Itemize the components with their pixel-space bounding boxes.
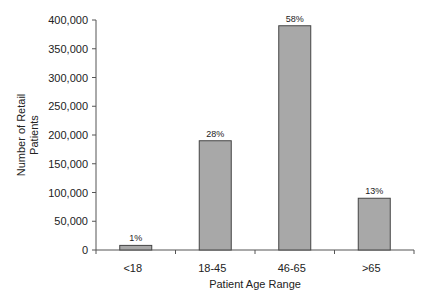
y-axis-label-line2: Patients — [28, 115, 40, 155]
bar — [279, 26, 311, 250]
y-tick-label: 50,000 — [54, 215, 88, 227]
y-tick-label: 350,000 — [48, 43, 88, 55]
bars: 1%28%58%13% — [120, 14, 391, 250]
y-axis-label: Number of Retail — [15, 94, 27, 177]
bar — [120, 245, 152, 250]
x-tick-label: >65 — [362, 262, 381, 274]
bar-data-label: 58% — [286, 14, 304, 24]
y-tick-label: 250,000 — [48, 100, 88, 112]
x-tick-label: 46-65 — [278, 262, 306, 274]
x-axis-label: Patient Age Range — [209, 278, 301, 290]
y-axis: 050,000100,000150,000200,000250,000300,0… — [48, 14, 96, 256]
y-tick-label: 0 — [82, 244, 88, 256]
bar — [358, 198, 390, 250]
x-tick-label: <18 — [123, 262, 142, 274]
y-tick-label: 150,000 — [48, 158, 88, 170]
bar-chart: 050,000100,000150,000200,000250,000300,0… — [0, 0, 429, 302]
y-tick-label: 400,000 — [48, 14, 88, 26]
y-tick-label: 300,000 — [48, 72, 88, 84]
bar-data-label: 13% — [365, 186, 383, 196]
bar-data-label: 28% — [206, 129, 224, 139]
bar — [199, 141, 231, 250]
x-axis: <1818-4546-65>65 — [96, 250, 414, 274]
y-tick-label: 200,000 — [48, 129, 88, 141]
x-tick-label: 18-45 — [198, 262, 226, 274]
bar-data-label: 1% — [129, 233, 142, 243]
y-tick-label: 100,000 — [48, 187, 88, 199]
